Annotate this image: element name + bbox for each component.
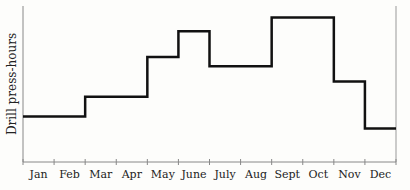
- x-tick-label: Dec: [370, 168, 392, 181]
- x-tick-label: Sept: [274, 168, 300, 181]
- x-tick-label: July: [213, 168, 236, 181]
- x-axis: [23, 159, 396, 165]
- x-tick-labels: JanFebMarAprMayJuneJulyAugSeptOctNovDec: [29, 168, 392, 181]
- step-series-line: [23, 18, 396, 129]
- x-tick-label: May: [151, 168, 176, 181]
- x-tick-label: Mar: [89, 168, 113, 181]
- x-tick-label: Oct: [308, 168, 328, 181]
- x-tick-label: June: [180, 168, 206, 181]
- step-chart: Drill press-hours JanFebMarAprMayJuneJul…: [0, 0, 410, 190]
- y-axis-label: Drill press-hours: [5, 33, 19, 135]
- x-tick-label: Nov: [338, 168, 361, 181]
- x-tick-label: Jan: [29, 168, 48, 181]
- x-tick-label: Apr: [121, 168, 143, 181]
- x-tick-label: Feb: [59, 168, 80, 181]
- x-tick-label: Aug: [244, 168, 267, 181]
